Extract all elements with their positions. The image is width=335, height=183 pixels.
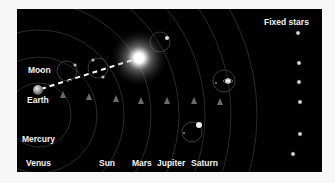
- label-venus: Venus: [26, 159, 51, 168]
- jupiter-planet: [196, 122, 202, 128]
- label-moon: Moon: [28, 66, 51, 75]
- saturn-moon: [215, 82, 217, 84]
- sun: [135, 54, 144, 63]
- label-mercury: Mercury: [22, 135, 55, 144]
- label-fixed-stars: Fixed stars: [264, 18, 309, 27]
- label-saturn: Saturn: [191, 159, 218, 168]
- label-mars: Mars: [132, 159, 152, 168]
- fixed-stars: [290, 30, 303, 157]
- jupiter-moon: [183, 132, 185, 134]
- mercury-planet: [73, 63, 76, 66]
- label-jupiter: Jupiter: [157, 159, 185, 168]
- venus-planet: [91, 58, 94, 61]
- venus-planet-2: [101, 75, 104, 78]
- geocentric-diagram: Fixed stars Moon Earth Mercury Venus Sun…: [17, 9, 322, 172]
- orbit-direction-markers: [60, 91, 223, 105]
- mars-planet: [165, 36, 169, 40]
- saturn-planet: [225, 78, 231, 84]
- orbit-illustration: [17, 9, 322, 172]
- label-earth: Earth: [27, 96, 49, 105]
- label-sun: Sun: [99, 159, 115, 168]
- earth: [33, 85, 43, 95]
